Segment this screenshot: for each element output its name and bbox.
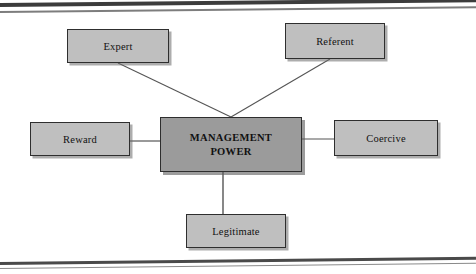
node-expert-label: Expert: [100, 41, 135, 52]
connector-expert-to-hub: [118, 63, 231, 117]
node-expert[interactable]: Expert: [67, 29, 169, 63]
node-coercive[interactable]: Coercive: [334, 120, 438, 156]
node-reward[interactable]: Reward: [30, 122, 130, 156]
node-legitimate-label: Legitimate: [209, 226, 262, 237]
page-bottom-border-hairline: [0, 263, 476, 270]
page-top-border-band: [0, 0, 476, 7]
node-reward-label: Reward: [60, 134, 100, 145]
management-power-diagram: Expert Referent Reward Coercive Legitima…: [0, 14, 469, 260]
node-management-power[interactable]: MANAGEMENT POWER: [160, 117, 302, 172]
node-coercive-label: Coercive: [363, 133, 409, 144]
hub-label-line-1: MANAGEMENT: [190, 132, 272, 143]
node-legitimate[interactable]: Legitimate: [186, 214, 286, 248]
node-referent-label: Referent: [313, 36, 357, 47]
hub-label-line-2: POWER: [210, 146, 251, 157]
connector-referent-to-hub: [231, 59, 330, 117]
page-top-border-hairline: [0, 6, 476, 12]
node-referent[interactable]: Referent: [285, 23, 385, 59]
node-management-power-label: MANAGEMENT POWER: [187, 131, 275, 157]
